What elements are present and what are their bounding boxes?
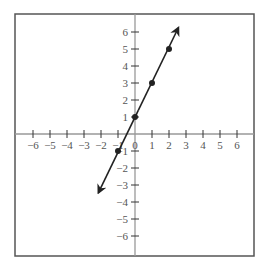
x-tick-label: 3 <box>183 139 189 151</box>
x-tick-label: −3 <box>78 139 90 151</box>
y-tick-label: 6 <box>123 26 129 38</box>
x-tick-label: 2 <box>166 139 172 151</box>
data-point <box>166 46 172 52</box>
y-tick-label: 3 <box>123 77 129 89</box>
x-tick-label: 1 <box>149 139 155 151</box>
y-tick-label: −3 <box>116 179 128 191</box>
x-tick-label: 5 <box>217 139 223 151</box>
x-tick-label: 0 <box>132 139 138 151</box>
axes <box>15 14 254 256</box>
data-point <box>115 148 121 154</box>
x-tick-label: −2 <box>95 139 107 151</box>
data-point <box>132 114 138 120</box>
y-tick-label: 4 <box>123 60 129 72</box>
x-tick-label: 6 <box>234 139 240 151</box>
coordinate-plane: −6−5−4−3−2−10123456−6−5−4−3−2−1123456 <box>0 0 269 269</box>
x-tick-label: −6 <box>27 139 39 151</box>
data-point <box>149 80 155 86</box>
y-tick-label: 5 <box>123 43 129 55</box>
x-tick-label: 4 <box>200 139 206 151</box>
y-tick-label: −2 <box>116 162 128 174</box>
y-tick-label: 1 <box>123 111 129 123</box>
y-tick-label: 2 <box>123 94 129 106</box>
y-tick-label: −4 <box>116 196 128 208</box>
line-upper <box>138 28 178 110</box>
x-tick-label: −5 <box>44 139 56 151</box>
y-tick-label: −5 <box>116 213 128 225</box>
x-tick-label: −4 <box>61 139 73 151</box>
y-tick-label: −6 <box>116 230 128 242</box>
